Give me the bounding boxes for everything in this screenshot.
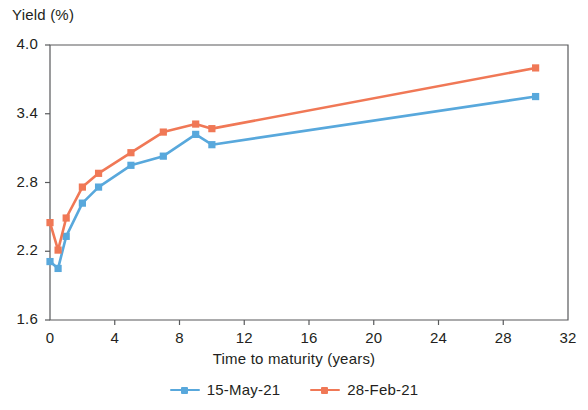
legend-item-15-may-21[interactable]: 15-May-21 bbox=[170, 381, 281, 398]
series-1 bbox=[46, 93, 539, 272]
y-tick-label: 3.4 bbox=[0, 104, 38, 121]
data-point-marker bbox=[95, 183, 102, 190]
data-point-marker bbox=[54, 265, 61, 272]
x-tick-label: 24 bbox=[419, 329, 459, 346]
x-tick-label: 4 bbox=[95, 329, 135, 346]
yield-curve-chart: Yield (%) 1.62.22.83.44.0 04812162024283… bbox=[0, 0, 588, 410]
series-2 bbox=[46, 64, 539, 253]
data-point-marker bbox=[208, 141, 215, 148]
legend-label-series-1: 15-May-21 bbox=[207, 381, 281, 398]
data-point-marker bbox=[532, 64, 539, 71]
y-tick-label: 2.2 bbox=[0, 241, 38, 258]
x-tick-label: 20 bbox=[354, 329, 394, 346]
x-tick-label: 32 bbox=[548, 329, 588, 346]
x-tick-label: 0 bbox=[30, 329, 70, 346]
legend-swatch-icon-series-1 bbox=[170, 384, 200, 396]
data-point-marker bbox=[46, 219, 53, 226]
legend-swatch-icon-series-2 bbox=[310, 384, 340, 396]
data-point-marker bbox=[127, 149, 134, 156]
axis-lines bbox=[45, 45, 568, 325]
x-tick-label: 12 bbox=[224, 329, 264, 346]
data-point-marker bbox=[63, 233, 70, 240]
data-point-marker bbox=[192, 120, 199, 127]
legend-item-28-feb-21[interactable]: 28-Feb-21 bbox=[310, 381, 418, 398]
x-tick-label: 8 bbox=[160, 329, 200, 346]
plot-area bbox=[0, 0, 588, 410]
series-layer bbox=[46, 64, 539, 272]
data-point-marker bbox=[79, 183, 86, 190]
data-point-marker bbox=[46, 258, 53, 265]
data-point-marker bbox=[127, 162, 134, 169]
data-point-marker bbox=[160, 153, 167, 160]
data-point-marker bbox=[532, 93, 539, 100]
data-point-marker bbox=[95, 170, 102, 177]
data-point-marker bbox=[63, 214, 70, 221]
data-point-marker bbox=[208, 125, 215, 132]
x-tick-label: 28 bbox=[483, 329, 523, 346]
data-point-marker bbox=[192, 131, 199, 138]
data-point-marker bbox=[160, 128, 167, 135]
chart-legend: 15-May-21 28-Feb-21 bbox=[0, 381, 588, 398]
data-point-marker bbox=[54, 247, 61, 254]
x-tick-label: 16 bbox=[289, 329, 329, 346]
y-tick-label: 2.8 bbox=[0, 173, 38, 190]
x-axis-title: Time to maturity (years) bbox=[0, 350, 588, 367]
legend-label-series-2: 28-Feb-21 bbox=[347, 381, 418, 398]
y-tick-label: 4.0 bbox=[0, 35, 38, 52]
data-point-marker bbox=[79, 200, 86, 207]
y-tick-label: 1.6 bbox=[0, 310, 38, 327]
